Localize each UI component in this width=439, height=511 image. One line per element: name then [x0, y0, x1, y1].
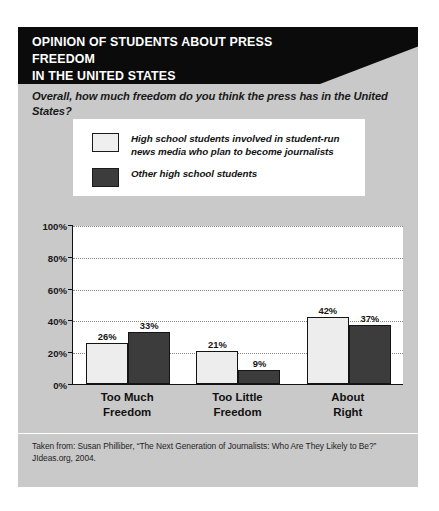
bar-value-label: 37% — [360, 313, 379, 324]
bar-value-label: 21% — [208, 339, 227, 350]
y-axis-tick-label: 80% — [48, 252, 67, 263]
source-citation: Taken from: Susan Philliber, “The Next G… — [32, 441, 410, 464]
category-label: Too Much Freedom — [72, 390, 182, 420]
legend-label-journalists: High school students involved in student… — [131, 132, 339, 158]
title-line-1: OPINION OF STUDENTS ABOUT PRESS FREEDOM — [32, 35, 272, 66]
bar-value-label: 26% — [98, 331, 117, 342]
bar-value-label: 33% — [140, 320, 159, 331]
bar-series-container: 26%33%21%9%42%37% — [73, 226, 403, 384]
plot-area: 0%20%40%60%80%100% 26%33%21%9%42%37% — [72, 226, 403, 385]
legend-swatch-light-icon — [92, 133, 119, 152]
infographic-card: OPINION OF STUDENTS ABOUT PRESS FREEDOM … — [18, 27, 418, 487]
bar-group: 21%9% — [183, 226, 293, 384]
source-divider — [18, 433, 418, 434]
bar[interactable]: 26% — [86, 343, 128, 384]
y-axis-tick-label: 100% — [42, 221, 67, 232]
bar[interactable]: 37% — [349, 325, 391, 384]
y-axis-tick-label: 40% — [48, 316, 67, 327]
y-axis-tick-label: 20% — [48, 348, 67, 359]
y-axis-tick-mark — [68, 384, 73, 385]
survey-question: Overall, how much freedom do you think t… — [32, 89, 410, 119]
category-label: About Right — [293, 390, 403, 420]
bar-group: 26%33% — [73, 226, 183, 384]
bar-value-label: 42% — [318, 305, 337, 316]
y-axis-tick-label: 0% — [53, 380, 67, 391]
legend-item-journalists: High school students involved in student… — [92, 132, 339, 158]
legend-label-other-students: Other high school students — [131, 167, 257, 180]
page-title: OPINION OF STUDENTS ABOUT PRESS FREEDOM … — [32, 34, 332, 85]
bar-chart: 0%20%40%60%80%100% 26%33%21%9%42%37% Too… — [18, 212, 418, 430]
bar[interactable]: 9% — [238, 370, 280, 384]
bar[interactable]: 33% — [128, 332, 170, 384]
legend-item-other-students: Other high school students — [92, 167, 257, 187]
bar-group: 42%37% — [294, 226, 404, 384]
category-label: Too Little Freedom — [182, 390, 292, 420]
bar[interactable]: 42% — [307, 317, 349, 384]
chart-legend: High school students involved in student… — [73, 119, 365, 196]
title-line-2: IN THE UNITED STATES — [32, 68, 332, 85]
chart-page: OPINION OF STUDENTS ABOUT PRESS FREEDOM … — [0, 0, 439, 511]
legend-swatch-dark-icon — [92, 168, 119, 187]
y-axis-tick-label: 60% — [48, 284, 67, 295]
bar[interactable]: 21% — [196, 351, 238, 384]
bar-value-label: 9% — [253, 358, 267, 369]
